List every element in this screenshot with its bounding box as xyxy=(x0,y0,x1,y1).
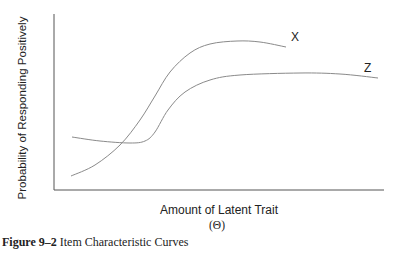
x-axis-label: Amount of Latent Trait xyxy=(160,203,278,217)
curve-x xyxy=(71,41,286,176)
figure-title: Item Characteristic Curves xyxy=(57,235,189,249)
x-axis-symbol: (Θ) xyxy=(209,219,225,231)
curve-label-x: X xyxy=(291,30,299,44)
curve-label-z: Z xyxy=(364,61,371,75)
figure-caption: Figure 9–2 Item Characteristic Curves xyxy=(2,235,188,250)
chart-canvas xyxy=(0,0,400,258)
y-axis-label: Probability of Responding Positively xyxy=(16,17,28,200)
figure-number: Figure 9–2 xyxy=(2,235,57,249)
curve-z xyxy=(72,73,378,143)
